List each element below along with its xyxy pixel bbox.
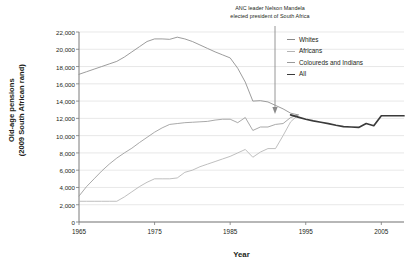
legend-label: Africans — [299, 48, 322, 54]
series-line-whites — [79, 37, 298, 115]
chart-container: ANC leader Nelson Mandela elected presid… — [0, 0, 411, 276]
legend-label: All — [299, 71, 306, 77]
legend-swatch-icon — [287, 74, 295, 75]
legend-item: Africans — [287, 46, 363, 58]
chart-legend: WhitesAfricansColoureds and IndiansAll — [287, 34, 363, 80]
legend-item: Coloureds and Indians — [287, 57, 363, 69]
legend-item: Whites — [287, 34, 363, 46]
series-line-coloureds-and-indians — [79, 115, 298, 196]
legend-label: Coloureds and Indians — [299, 60, 363, 66]
legend-swatch-icon — [287, 62, 295, 63]
legend-item: All — [287, 69, 363, 81]
series-line-all — [291, 115, 404, 128]
legend-swatch-icon — [287, 51, 295, 52]
series-line-africans — [79, 115, 298, 201]
legend-swatch-icon — [287, 39, 295, 40]
annotation-arrow-head — [272, 107, 277, 114]
legend-label: Whites — [299, 37, 319, 43]
